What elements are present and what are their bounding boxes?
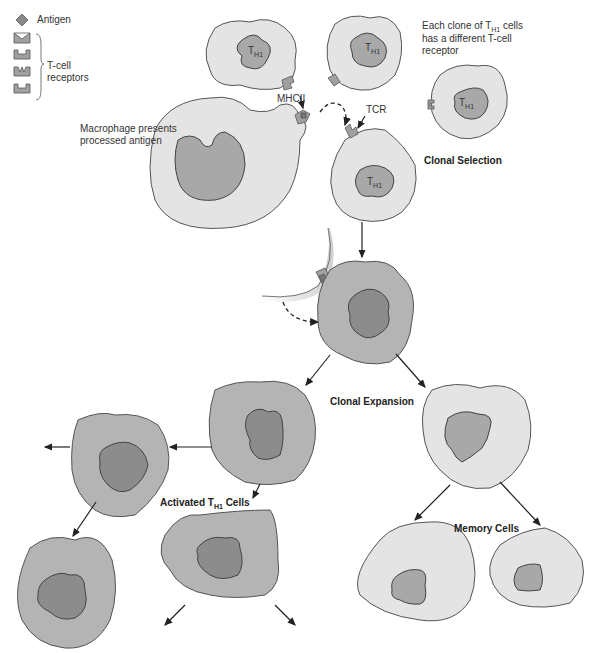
receptor-square-icon — [14, 50, 30, 59]
activated-text: Activated T — [160, 497, 214, 508]
receptors-label-line2: receptors — [47, 72, 89, 84]
macrophage — [150, 97, 310, 228]
antigen-icon — [16, 14, 28, 26]
th1-sub: H1 — [373, 182, 382, 189]
bracket-icon — [36, 34, 44, 100]
activated-sub: H1 — [214, 503, 223, 510]
clone-note-line3: receptor — [422, 45, 459, 57]
memory-precursor-cell — [422, 384, 530, 488]
macrophage-label-line1: Macrophage presents — [80, 123, 177, 135]
activated-suffix: Cells — [223, 497, 250, 508]
clone-note-text: Each clone of T — [422, 20, 491, 31]
th1-sub: H1 — [465, 103, 474, 110]
th1-label-right: TH1 — [459, 97, 474, 110]
antigen-label: Antigen — [37, 14, 71, 26]
memory-cells-label: Memory Cells — [454, 523, 519, 535]
activated-cell-left — [72, 413, 169, 516]
activated-central-cell — [318, 261, 414, 364]
clone-note-suffix: cells — [500, 20, 523, 31]
receptor-w-icon — [14, 67, 30, 76]
memory-cell-right — [490, 528, 584, 607]
legend — [14, 14, 44, 100]
macrophage-label-line2: processed antigen — [80, 135, 162, 147]
activated-cells-label: Activated TH1 Cells — [160, 497, 250, 513]
th1-sub: H1 — [371, 48, 380, 55]
th1-sub: H1 — [254, 51, 263, 58]
mhcii-label: MHCII — [277, 93, 305, 105]
activated-cell-bottom-left — [18, 537, 116, 648]
activated-cell-upper — [209, 381, 315, 484]
th1-cell-selected — [331, 124, 416, 221]
receptor-square-icon-2 — [14, 84, 30, 93]
clonal-selection-label: Clonal Selection — [424, 155, 502, 167]
activated-cell-bottom-middle — [161, 510, 279, 598]
memory-cell-left — [358, 522, 476, 621]
tcr-label: TCR — [366, 104, 387, 116]
th1-label-selected: TH1 — [367, 176, 382, 189]
receptors-label-line1: T-cell — [47, 60, 71, 72]
clone-note-line2: has a different T-cell — [422, 33, 512, 45]
th1-label-top-middle: TH1 — [365, 42, 380, 55]
clonal-expansion-label: Clonal Expansion — [330, 396, 414, 408]
th1-label-top-left: TH1 — [248, 45, 263, 58]
receptor-v-icon — [14, 33, 30, 43]
clone-note-sub: H1 — [491, 26, 500, 33]
